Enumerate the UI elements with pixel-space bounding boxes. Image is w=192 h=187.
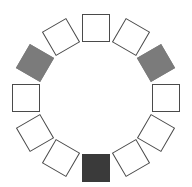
square-ring-diagram (0, 0, 192, 187)
ring-square (12, 84, 40, 112)
ring-square (111, 18, 149, 56)
ring-square (16, 113, 54, 151)
ring-square (152, 84, 180, 112)
ring-square (41, 139, 79, 177)
ring-square (82, 154, 110, 182)
ring-square (137, 113, 175, 151)
ring-square (16, 43, 54, 81)
ring-square (111, 139, 149, 177)
ring-square (137, 43, 175, 81)
ring-square (82, 14, 110, 42)
ring-square (41, 18, 79, 56)
